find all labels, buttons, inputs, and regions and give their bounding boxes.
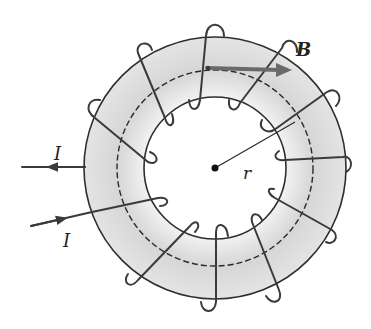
lead-in-arrow-segment	[31, 219, 62, 226]
lead-wires	[22, 167, 92, 226]
center-dot	[212, 165, 219, 172]
label-radius: r	[243, 163, 252, 183]
toroid-diagram: B I I r	[0, 0, 371, 329]
label-current-in: I	[62, 230, 71, 251]
label-current-out: I	[53, 143, 62, 164]
label-b-field: B	[295, 39, 311, 60]
